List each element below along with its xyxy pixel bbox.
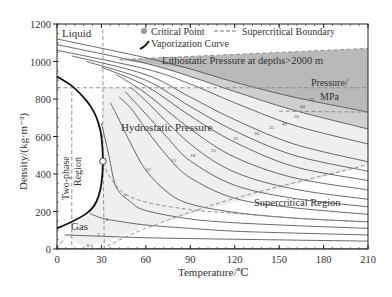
x-tick-label: 210	[360, 254, 376, 265]
legend-supercritical-boundary-label: Supercritical Boundary	[242, 26, 335, 37]
legend-vaporization-curve-icon	[140, 41, 149, 49]
y-tick-label: 800	[35, 94, 51, 105]
label-hydrostatic: Hydrostatic Pressure	[121, 121, 212, 133]
critical-point-marker	[100, 158, 106, 164]
phase-diagram-chart: 0.13691215182125303540506070 03060901201…	[0, 0, 392, 297]
label-lithostatic: Lithostatic Pressure at depths>2000 m	[162, 55, 323, 66]
legend: Critical Point Supercritical Boundary Va…	[140, 26, 335, 49]
isobar-label-30: 30	[254, 131, 260, 136]
isobar-label-25: 25	[233, 136, 239, 141]
label-supercritical-region: Supercritical Region	[254, 197, 341, 208]
label-two-phase: Two-phase	[60, 156, 71, 200]
isobar-label-70: 70	[309, 97, 315, 102]
isobar-label-12: 12	[146, 167, 152, 172]
isobar-label-60: 60	[300, 104, 306, 109]
isobar-label-21: 21	[211, 148, 217, 153]
label-pressure-unit-2: MPa	[320, 91, 339, 102]
y-tick-label: 1000	[30, 57, 51, 68]
legend-critical-point-label: Critical Point	[151, 26, 205, 37]
y-axis-title: Density/(kg·m⁻³)	[17, 113, 30, 190]
x-tick-label: 120	[227, 254, 243, 265]
x-tick-label: 0	[54, 254, 59, 265]
y-tick-label: 400	[35, 169, 51, 180]
x-axis-title: Temperature/℃	[178, 266, 249, 278]
y-tick-label: 200	[35, 207, 51, 218]
x-tick-label: 150	[271, 254, 287, 265]
x-tick-label: 60	[141, 254, 152, 265]
isobar-label-15: 15	[171, 158, 177, 163]
label-gas: Gas	[71, 220, 88, 232]
label-region: Region	[72, 157, 83, 186]
legend-critical-point-icon	[141, 28, 147, 34]
label-liquid: Liquid	[62, 27, 92, 39]
x-tick-label: 90	[185, 254, 196, 265]
x-tick-label: 30	[96, 254, 107, 265]
y-tick-label: 0	[46, 244, 51, 255]
y-tick-label: 1200	[30, 19, 51, 30]
legend-vaporization-curve-label: Vaporization Curve	[151, 38, 230, 49]
isobar-label-35: 35	[269, 125, 275, 130]
label-pressure-unit-1: Pressure/	[311, 77, 348, 88]
isobar-label-50: 50	[294, 114, 300, 119]
y-tick-label: 600	[35, 132, 51, 143]
isobar-label-18: 18	[190, 153, 196, 158]
isobar-label-40: 40	[282, 121, 288, 126]
x-tick-label: 180	[316, 254, 332, 265]
